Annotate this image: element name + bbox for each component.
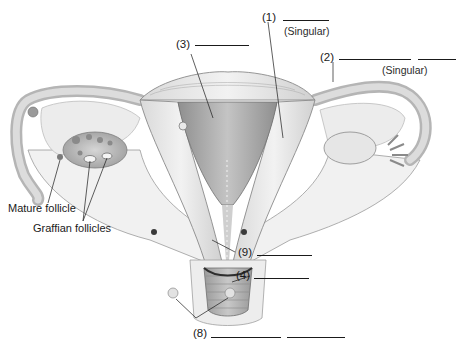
answer-blank-2b[interactable] [418, 59, 456, 60]
label-3-number: (3) [176, 38, 190, 50]
answer-blank-4[interactable] [254, 278, 309, 279]
answer-blank-8b[interactable] [287, 337, 345, 338]
label-1-number: (1) [262, 11, 276, 23]
answer-blank-8a[interactable] [211, 337, 281, 338]
answer-blank-1[interactable] [283, 20, 329, 21]
label-9-number: (9) [238, 246, 252, 258]
label-mature-follicle: Mature follicle [8, 202, 76, 214]
answer-blank-9[interactable] [257, 255, 312, 256]
answer-blank-3[interactable] [195, 45, 249, 46]
answer-blank-2a[interactable] [339, 59, 411, 60]
label-1-singular-note: (Singular) [284, 25, 330, 37]
label-4-number: (4) [236, 269, 250, 281]
reproductive-anatomy-diagram: (1) (Singular) (3) (2) (Singular) Mature… [0, 0, 470, 347]
label-graafian-follicles: Graffian follicles [33, 222, 111, 234]
label-2-singular-note: (Singular) [382, 64, 428, 76]
label-2-number: (2) [320, 51, 334, 63]
uterus-illustration [0, 0, 470, 347]
label-8-number: (8) [193, 327, 207, 339]
